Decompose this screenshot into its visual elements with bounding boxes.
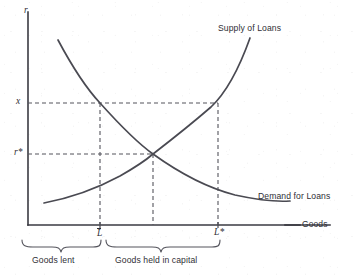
supply-curve-label: Supply of Loans — [218, 24, 281, 33]
y-tick-label-rate-high: x — [16, 97, 20, 107]
x-tick-label-quantity-star: L* — [214, 228, 224, 238]
demand-curve-label: Demand for Loans — [258, 192, 330, 201]
bracket-label-goods-held-in-capital: Goods held in capital — [115, 256, 197, 265]
supply-curve — [44, 38, 250, 203]
demand-curve — [58, 40, 290, 201]
brace-goods-lent — [22, 240, 101, 252]
bracket-label-goods-lent: Goods lent — [32, 256, 75, 265]
x-tick-label-quantity-lent-text: L — [97, 228, 102, 239]
x-tick-label-quantity-lent: L — [97, 228, 102, 239]
loanable-funds-figure: r Goods x r* L L* Supply of Loans Demand… — [0, 0, 355, 277]
y-tick-label-rate-equilibrium: r* — [14, 148, 23, 158]
x-axis-label: Goods — [302, 220, 328, 229]
brace-goods-held-in-capital — [106, 240, 220, 252]
y-axis-label: r — [24, 6, 28, 16]
